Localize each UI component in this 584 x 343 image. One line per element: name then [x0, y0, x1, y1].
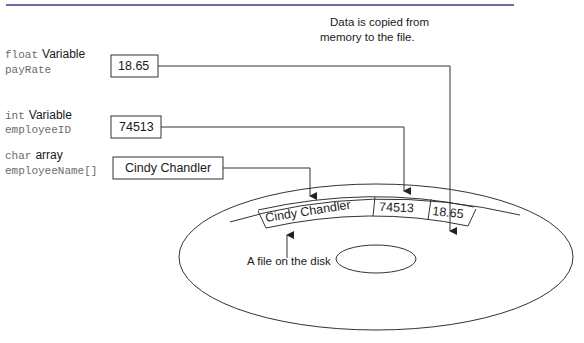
value-payrate: 18.65 — [118, 59, 149, 73]
file-field-employeeid: 74513 — [379, 200, 414, 215]
variable-employeename-type-label: chararray — [5, 148, 63, 162]
type-keyword-char: char — [5, 150, 31, 162]
variable-name-employeename: employeeName[] — [5, 165, 97, 177]
variable-payrate: floatVariable payRate 18.65 — [5, 47, 158, 77]
file-record-divider-2 — [428, 199, 431, 220]
variable-employeeid: intVariable employeeID 74513 — [5, 108, 161, 138]
file-record-divider-1 — [373, 197, 375, 216]
disk-file-label: A file on the disk — [247, 255, 331, 267]
variable-payrate-type-label: floatVariable — [5, 47, 85, 61]
arrow-employeename-to-file — [223, 168, 310, 196]
disk-outer-ellipse — [179, 184, 573, 330]
value-employeeid: 74513 — [119, 120, 154, 134]
variable-name-payrate: payRate — [5, 64, 51, 76]
type-word-variable: Variable — [42, 47, 85, 61]
caption-line-1: Data is copied from — [330, 16, 429, 28]
disk-hub-ellipse — [336, 245, 416, 273]
file-record-right-edge — [468, 209, 476, 226]
caption-line-2: memory to the file. — [320, 31, 415, 43]
type-word-variable: Variable — [29, 108, 72, 122]
value-employeename: Cindy Chandler — [125, 161, 211, 175]
variable-employeename: chararray employeeName[] Cindy Chandler — [5, 148, 223, 179]
file-field-payrate: 18.65 — [432, 204, 465, 221]
variable-employeeid-type-label: intVariable — [5, 108, 72, 122]
type-keyword-int: int — [5, 110, 25, 122]
file-write-diagram: Data is copied from memory to the file. … — [0, 0, 584, 343]
variable-name-employeeid: employeeID — [5, 124, 71, 136]
type-keyword-float: float — [5, 49, 38, 61]
file-record: Cindy Chandler 74513 18.65 — [258, 197, 476, 228]
type-word-array: array — [35, 148, 62, 162]
